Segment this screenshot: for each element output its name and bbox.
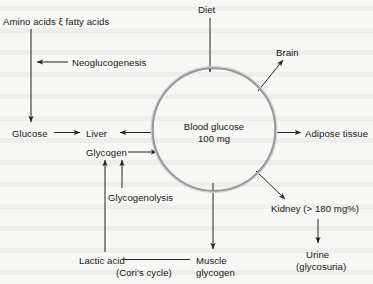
label-liver: Liver [86, 128, 107, 139]
label-urine: Urine [306, 249, 329, 260]
label-brain: Brain [276, 47, 299, 58]
blood-glucose-label: Blood glucose 100 mg [164, 121, 264, 146]
blood-glucose-title: Blood glucose [164, 121, 264, 133]
label-kidney-threshold: Kidney (> 180 mg%) [271, 203, 359, 214]
blood-glucose-value: 100 mg [164, 133, 264, 145]
label-lactic-acid: Lactic acid [79, 255, 125, 266]
label-amino-acids-fatty-acids: Amino acids ξ fatty acids [3, 16, 109, 27]
label-glucose: Glucose [12, 128, 48, 139]
blood-glucose-diagram: Amino acids ξ fatty acids Neoglucogenesi… [0, 0, 373, 284]
label-muscle-glycogen: glycogen [196, 267, 235, 278]
label-glycogenolysis: Glycogenolysis [108, 192, 173, 203]
label-muscle: Muscle [196, 255, 227, 266]
edge-pool-to-kidney [256, 171, 285, 199]
label-diet: Diet [198, 4, 215, 15]
label-cori-cycle: (Cori's cycle) [116, 267, 172, 278]
label-glycosuria: (glycosuria) [296, 261, 346, 272]
label-neoglucogenesis: Neoglucogenesis [72, 57, 146, 68]
label-adipose-tissue: Adipose tissue [305, 128, 368, 139]
edge-pool-to-brain [258, 60, 283, 91]
label-glycogen: Glycogen [86, 147, 127, 158]
